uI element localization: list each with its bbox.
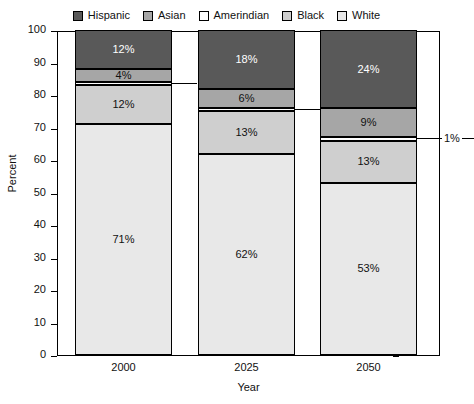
bar-2050[interactable]: 53%13%1%9%24%: [320, 30, 417, 355]
legend-swatch-black: [282, 11, 292, 21]
segment-value-label: 9%: [361, 117, 377, 128]
segment-white-2050[interactable]: 53%: [320, 183, 417, 355]
legend-item-asian[interactable]: Asian: [143, 10, 186, 21]
segment-hispanic-2000[interactable]: 12%: [75, 30, 172, 69]
segment-amerindian-2000[interactable]: 1%: [75, 82, 172, 85]
y-tick-label: 30: [34, 252, 46, 263]
y-axis-title: Percent: [7, 144, 18, 204]
plot-area: 71%12%1%4%12%62%13%1%6%18%53%13%1%9%24%: [57, 31, 440, 356]
x-axis-title: Year: [57, 382, 440, 393]
segment-black-2025[interactable]: 13%: [198, 111, 295, 153]
callout-value-label: 1%: [444, 133, 460, 144]
segment-white-2025[interactable]: 62%: [198, 154, 295, 356]
segment-black-2000[interactable]: 12%: [75, 85, 172, 124]
y-tick-label: 90: [34, 57, 46, 68]
legend-item-white[interactable]: White: [337, 10, 380, 21]
callout-leader-line: [294, 109, 320, 110]
y-tick-mark: [51, 356, 57, 357]
segment-value-label: 4%: [116, 70, 132, 81]
x-axis: 200020252050: [57, 362, 440, 376]
legend-swatch-amerindian: [199, 11, 209, 21]
x-tick-label-2050: 2050: [356, 362, 380, 373]
segment-hispanic-2025[interactable]: 18%: [198, 30, 295, 89]
segment-value-label: 6%: [239, 93, 255, 104]
segment-value-label: 53%: [357, 263, 379, 274]
segment-asian-2000[interactable]: 4%: [75, 69, 172, 82]
segment-value-label: 12%: [112, 99, 134, 110]
legend-label: Amerindian: [214, 10, 270, 21]
chart-legend: HispanicAsianAmerindianBlackWhite: [0, 10, 453, 21]
segment-asian-2025[interactable]: 6%: [198, 89, 295, 109]
x-tick-label-2000: 2000: [111, 362, 135, 373]
legend-swatch-white: [337, 11, 347, 21]
callout-leader-line-tail: [462, 138, 474, 139]
segment-hispanic-2050[interactable]: 24%: [320, 30, 417, 108]
legend-swatch-hispanic: [73, 11, 83, 21]
bar-2025[interactable]: 62%13%1%6%18%: [198, 30, 295, 355]
segment-value-label: 18%: [235, 54, 257, 65]
segment-asian-2050[interactable]: 9%: [320, 108, 417, 137]
callout-leader-line: [171, 83, 197, 84]
legend-item-black[interactable]: Black: [282, 10, 324, 21]
y-tick-label: 80: [34, 89, 46, 100]
legend-label: Hispanic: [88, 10, 130, 21]
y-tick-label: 10: [34, 317, 46, 328]
segment-value-label: 13%: [235, 127, 257, 138]
segment-value-label: 24%: [357, 64, 379, 75]
legend-label: Asian: [158, 10, 186, 21]
y-tick-label: 70: [34, 122, 46, 133]
y-axis-right-ticks: [440, 31, 450, 356]
x-tick-label-2025: 2025: [234, 362, 258, 373]
legend-item-hispanic[interactable]: Hispanic: [73, 10, 130, 21]
legend-label: White: [352, 10, 380, 21]
y-tick-mark: [393, 356, 399, 357]
segment-amerindian-2025[interactable]: 1%: [198, 108, 295, 111]
legend-item-amerindian[interactable]: Amerindian: [199, 10, 270, 21]
y-tick-label: 0: [40, 349, 46, 360]
callout-leader-line: [416, 138, 442, 139]
y-tick-label: 20: [34, 284, 46, 295]
legend-swatch-asian: [143, 11, 153, 21]
segment-value-label: 62%: [235, 249, 257, 260]
y-tick-label: 50: [34, 187, 46, 198]
segment-amerindian-2050[interactable]: 1%: [320, 137, 417, 140]
segment-black-2050[interactable]: 13%: [320, 141, 417, 183]
segment-white-2000[interactable]: 71%: [75, 124, 172, 355]
legend-label: Black: [297, 10, 324, 21]
y-tick-label: 40: [34, 219, 46, 230]
bar-2000[interactable]: 71%12%1%4%12%: [75, 30, 172, 355]
segment-value-label: 71%: [112, 234, 134, 245]
y-tick-label: 100: [28, 24, 46, 35]
segment-value-label: 13%: [357, 156, 379, 167]
segment-value-label: 12%: [112, 44, 134, 55]
y-tick-label: 60: [34, 154, 46, 165]
